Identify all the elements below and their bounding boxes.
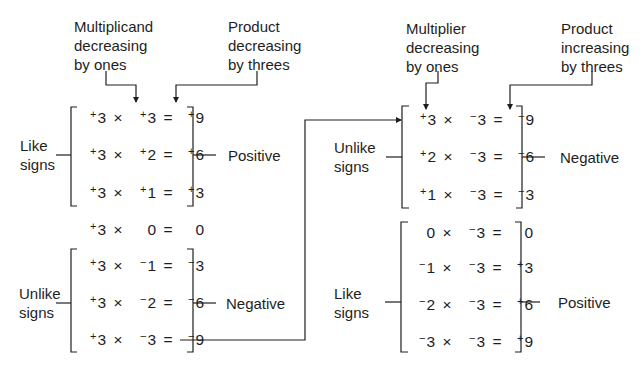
product: 0 bbox=[509, 224, 533, 242]
factor-b: −3 bbox=[459, 333, 485, 351]
factor-b-sign: − bbox=[140, 293, 146, 305]
equation-row: +2×−3=−6 bbox=[408, 148, 534, 166]
equation-row: +1×−3=−3 bbox=[408, 186, 534, 204]
factor-a-value: 3 bbox=[426, 333, 435, 351]
equation-row: −3×−3=+9 bbox=[407, 333, 533, 351]
times-symbol: × bbox=[106, 184, 130, 202]
product: −3 bbox=[180, 257, 204, 275]
annotation-line: Multiplier bbox=[406, 19, 479, 38]
factor-b: −1 bbox=[130, 257, 156, 275]
product: −6 bbox=[180, 294, 204, 312]
product: +3 bbox=[509, 259, 533, 277]
product: −9 bbox=[180, 331, 204, 349]
result-label-right-positive: Positive bbox=[558, 293, 611, 312]
annotation-multiplicand: Multiplicand decreasing by ones bbox=[74, 17, 153, 74]
factor-a-sign: + bbox=[420, 110, 426, 122]
equals-symbol: = bbox=[156, 109, 180, 127]
factor-b: 0 bbox=[130, 221, 156, 239]
annotation-multiplier: Multiplier decreasing by ones bbox=[406, 19, 479, 76]
factor-a-sign: + bbox=[90, 256, 96, 268]
side-label-right-unlike: Unlike signs bbox=[334, 138, 376, 176]
side-label-line: Like bbox=[334, 284, 369, 303]
factor-a-value: 3 bbox=[97, 257, 106, 275]
factor-a-value: 0 bbox=[426, 224, 435, 242]
factor-a-value: 3 bbox=[97, 146, 106, 164]
product-sign: − bbox=[518, 185, 524, 197]
factor-a-sign: + bbox=[420, 147, 426, 159]
factor-b: −3 bbox=[459, 259, 485, 277]
side-label-line: signs bbox=[334, 303, 369, 322]
equals-symbol: = bbox=[156, 294, 180, 312]
times-symbol: × bbox=[106, 109, 130, 127]
factor-b-sign: − bbox=[469, 258, 475, 270]
factor-a-sign: + bbox=[90, 293, 96, 305]
factor-b-sign: − bbox=[469, 332, 475, 344]
equals-symbol: = bbox=[485, 296, 509, 314]
factor-b: −3 bbox=[460, 148, 486, 166]
equation-row: +3×+1=+3 bbox=[78, 184, 204, 202]
annotation-line: by threes bbox=[228, 55, 301, 74]
side-label-line: signs bbox=[19, 303, 61, 322]
factor-b-value: 3 bbox=[477, 111, 486, 129]
factor-b-value: 2 bbox=[147, 294, 156, 312]
times-symbol: × bbox=[435, 296, 459, 314]
factor-a: +3 bbox=[78, 109, 106, 127]
factor-b-sign: − bbox=[470, 147, 476, 159]
factor-b-sign: − bbox=[469, 295, 475, 307]
annotation-line: Product bbox=[228, 17, 301, 36]
equals-symbol: = bbox=[485, 224, 509, 242]
factor-a-value: 3 bbox=[97, 109, 106, 127]
product-value: 6 bbox=[524, 296, 533, 314]
product-value: 9 bbox=[195, 331, 204, 349]
times-symbol: × bbox=[106, 294, 130, 312]
factor-b-value: 0 bbox=[147, 221, 156, 239]
equals-symbol: = bbox=[156, 184, 180, 202]
equation-row: +3×0=0 bbox=[78, 221, 204, 239]
multiplicand-arrow bbox=[106, 71, 136, 102]
factor-a-value: 1 bbox=[427, 186, 436, 204]
equation-row: +3×−3=−9 bbox=[78, 331, 204, 349]
annotation-line: by ones bbox=[74, 55, 153, 74]
factor-a: −2 bbox=[407, 296, 435, 314]
side-label-left-unlike: Unlike signs bbox=[19, 284, 61, 322]
factor-a: −1 bbox=[407, 259, 435, 277]
product: +6 bbox=[180, 146, 204, 164]
factor-a-sign: − bbox=[419, 295, 425, 307]
factor-b: +2 bbox=[130, 146, 156, 164]
times-symbol: × bbox=[436, 186, 460, 204]
equation-row: +3×−1=−3 bbox=[78, 257, 204, 275]
equation-row: −2×−3=+6 bbox=[407, 296, 533, 314]
product-sign: − bbox=[188, 256, 194, 268]
product-value: 3 bbox=[195, 184, 204, 202]
product-sign: − bbox=[518, 147, 524, 159]
product: +6 bbox=[509, 296, 533, 314]
product-value: 0 bbox=[195, 221, 204, 239]
factor-b-sign: − bbox=[470, 185, 476, 197]
product-value: 0 bbox=[524, 224, 533, 242]
equals-symbol: = bbox=[486, 148, 510, 166]
equals-symbol: = bbox=[485, 333, 509, 351]
product-sign: − bbox=[518, 110, 524, 122]
product-value: 6 bbox=[195, 294, 204, 312]
factor-a: +3 bbox=[78, 146, 106, 164]
factor-a-value: 3 bbox=[97, 331, 106, 349]
factor-a-value: 1 bbox=[426, 259, 435, 277]
factor-a-sign: − bbox=[419, 332, 425, 344]
product-value: 9 bbox=[195, 109, 204, 127]
product: −6 bbox=[510, 148, 534, 166]
equation-row: +3×+3=+9 bbox=[78, 109, 204, 127]
factor-b-value: 1 bbox=[147, 184, 156, 202]
annotation-product-decreasing: Product decreasing by threes bbox=[228, 17, 301, 74]
side-label-line: Unlike bbox=[19, 284, 61, 303]
product-sign: − bbox=[188, 293, 194, 305]
factor-a: +2 bbox=[408, 148, 436, 166]
factor-a-value: 3 bbox=[97, 294, 106, 312]
side-label-line: Like bbox=[20, 136, 55, 155]
equation-row: 0×−3=0 bbox=[407, 224, 533, 242]
factor-a-value: 3 bbox=[97, 184, 106, 202]
factor-b-sign: − bbox=[140, 330, 146, 342]
factor-a: +3 bbox=[78, 184, 106, 202]
factor-a-value: 3 bbox=[427, 111, 436, 129]
factor-a-sign: + bbox=[90, 108, 96, 120]
annotation-line: decreasing bbox=[406, 38, 479, 57]
